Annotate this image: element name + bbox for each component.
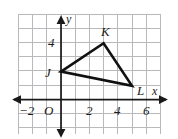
graph-canvas xyxy=(0,0,178,139)
x-tick-label-2: 2 xyxy=(86,104,93,117)
x-tick-label-4: 4 xyxy=(114,104,121,117)
y-tick-label-4: 4 xyxy=(48,36,55,49)
vertex-label-j: J xyxy=(45,66,51,79)
y-axis-label: y xyxy=(66,13,71,25)
coordinate-grid-figure: J K L y x O −2 2 4 6 4 xyxy=(0,0,178,139)
origin-label: O xyxy=(44,104,53,117)
vertex-label-l: L xyxy=(137,84,144,97)
x-axis-label: x xyxy=(152,85,157,97)
x-tick-label-6: 6 xyxy=(143,104,150,117)
x-tick-label--2: −2 xyxy=(19,104,34,117)
vertex-label-k: K xyxy=(101,25,110,38)
triangle-jkl xyxy=(61,43,132,86)
